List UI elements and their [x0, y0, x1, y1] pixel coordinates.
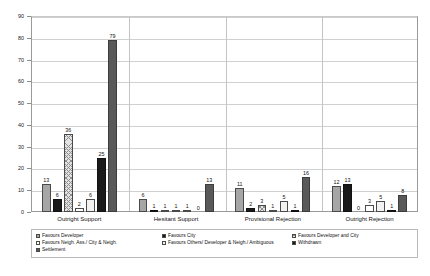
bar	[97, 158, 106, 212]
group-separator	[226, 17, 227, 211]
gridline	[32, 82, 417, 83]
bar	[302, 177, 311, 212]
bar-value-label: 5	[276, 194, 293, 200]
chart-legend: Favours DeveloperFavours Neigh. Ass./ Ci…	[31, 229, 418, 258]
legend-label: Favours Others/ Developer & Neigh./ Ambi…	[168, 240, 274, 246]
bar	[205, 184, 214, 212]
bar-value-label: 79	[104, 33, 121, 39]
y-axis-tick-label: 30	[0, 144, 24, 150]
y-axis-tick-label: 60	[0, 78, 24, 84]
legend-label: Withdrawn	[298, 240, 321, 246]
legend-item[interactable]: Favours Developer	[36, 233, 83, 239]
y-axis-tick-label: 90	[0, 13, 24, 19]
gridline	[32, 169, 417, 170]
y-axis-tick-mark	[27, 168, 31, 169]
legend-swatch-icon	[162, 241, 166, 245]
bar	[291, 210, 300, 212]
category-label: Hesitant Support	[128, 216, 225, 223]
bar-value-label: 5	[372, 194, 389, 200]
legend-item[interactable]: Favours Developer and City	[292, 233, 359, 239]
y-axis-tick-label: 70	[0, 57, 24, 63]
bar-value-label: 11	[231, 181, 248, 187]
legend-swatch-icon	[292, 241, 296, 245]
y-axis-tick-label: 0	[0, 209, 24, 215]
y-axis-tick-mark	[27, 190, 31, 191]
legend-label: Settlement	[42, 247, 65, 253]
group-separator	[129, 17, 130, 211]
bar	[161, 210, 170, 212]
y-axis-tick-mark	[27, 212, 31, 213]
bar-chart: 0102030405060708090 13636262579611110131…	[0, 0, 430, 276]
bar	[75, 208, 84, 212]
legend-swatch-icon	[36, 241, 40, 245]
bar-value-label: 13	[201, 177, 218, 183]
legend-item[interactable]: Favours City	[162, 233, 195, 239]
gridline	[32, 104, 417, 105]
bar	[365, 205, 374, 212]
bar	[150, 210, 159, 212]
y-axis-tick-mark	[27, 147, 31, 148]
legend-item[interactable]: Settlement	[36, 247, 65, 253]
bar	[398, 195, 407, 212]
gridline	[32, 61, 417, 62]
bar-value-label: 13	[339, 177, 356, 183]
y-axis-tick-mark	[27, 125, 31, 126]
category-label: Provisional Rejection	[225, 216, 322, 223]
y-axis-tick-label: 40	[0, 122, 24, 128]
category-label: Outright Support	[31, 216, 128, 223]
legend-label: Favours Developer	[42, 233, 83, 239]
bar	[269, 210, 278, 212]
bar-value-label: 13	[38, 177, 55, 183]
bar	[387, 210, 396, 212]
bar-value-label: 6	[135, 192, 152, 198]
bar	[108, 40, 117, 212]
category-label: Outright Rejection	[321, 216, 418, 223]
legend-swatch-icon	[162, 234, 166, 238]
y-axis-tick-label: 10	[0, 187, 24, 193]
y-axis-tick-mark	[27, 16, 31, 17]
y-axis-tick-label: 80	[0, 35, 24, 41]
y-axis-tick-mark	[27, 103, 31, 104]
bar	[172, 210, 181, 212]
bar-value-label: 8	[394, 188, 411, 194]
legend-swatch-icon	[292, 234, 296, 238]
y-axis-tick-mark	[27, 60, 31, 61]
bar	[332, 186, 341, 212]
legend-item[interactable]: Favours Neigh. Ass./ City & Neigh.	[36, 240, 117, 246]
legend-item[interactable]: Withdrawn	[292, 240, 321, 246]
y-axis-tick-label: 20	[0, 165, 24, 171]
y-axis-tick-label: 50	[0, 100, 24, 106]
gridline	[32, 126, 417, 127]
legend-swatch-icon	[36, 234, 40, 238]
legend-swatch-icon	[36, 248, 40, 252]
bar	[53, 199, 62, 212]
gridline	[32, 148, 417, 149]
y-axis-tick-mark	[27, 38, 31, 39]
legend-label: Favours Developer and City	[298, 233, 359, 239]
plot-area	[31, 16, 418, 212]
bar	[86, 199, 95, 212]
bar-value-label: 16	[298, 170, 315, 176]
bar-value-label: 36	[60, 127, 77, 133]
legend-label: Favours City	[168, 233, 195, 239]
bar	[246, 208, 255, 212]
gridline	[32, 39, 417, 40]
legend-item[interactable]: Favours Others/ Developer & Neigh./ Ambi…	[162, 240, 274, 246]
group-separator	[322, 17, 323, 211]
legend-label: Favours Neigh. Ass./ City & Neigh.	[42, 240, 117, 246]
gridline	[32, 17, 417, 18]
y-axis-tick-mark	[27, 81, 31, 82]
